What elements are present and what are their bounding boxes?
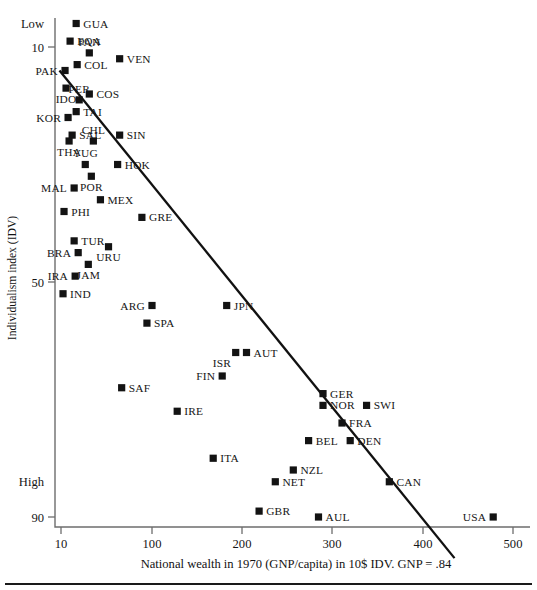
data-point: SAF (118, 382, 150, 394)
data-point: IND (59, 288, 91, 300)
data-point-marker (86, 90, 93, 97)
data-point: USA (463, 511, 497, 523)
data-point: ARG (120, 300, 155, 312)
data-point-marker (210, 455, 217, 462)
data-point-label: CAN (396, 476, 421, 488)
data-point-marker (105, 243, 112, 250)
data-point-marker (65, 137, 72, 144)
data-point-label: IRA (48, 270, 69, 282)
data-point: AUL (315, 511, 350, 523)
data-point-label: GRE (149, 211, 172, 223)
data-point-marker (490, 513, 497, 520)
data-point-label: SAF (129, 382, 151, 394)
data-point: CAN (386, 476, 421, 488)
data-point-marker (290, 466, 297, 473)
data-point-marker (67, 38, 74, 45)
data-point-label: POR (80, 181, 103, 193)
data-point-label: COL (84, 59, 107, 71)
data-point-label: COS (96, 88, 119, 100)
data-point-label: YUG (73, 147, 98, 159)
data-point: JPN (223, 300, 253, 312)
data-point-marker (60, 208, 67, 215)
data-point: GUA (73, 18, 110, 30)
data-point: JAM (77, 261, 100, 281)
x-tick-label: 500 (504, 537, 523, 551)
data-point: AUT (243, 347, 278, 359)
scatter-chart: 10100200300400500105090LowHighGUAEQAPANP… (0, 0, 537, 590)
data-point: HOK (114, 159, 151, 171)
data-point: MAL (41, 182, 78, 194)
data-point: GBR (256, 505, 291, 517)
data-point-label: IRE (184, 405, 203, 417)
data-point: NOR (319, 399, 355, 411)
data-point: FIN (196, 370, 226, 382)
data-point: PAN (78, 36, 100, 57)
data-point-marker (118, 384, 125, 391)
data-point-marker (138, 214, 145, 221)
y-axis-annotation-low: Low (21, 17, 45, 31)
data-point-marker (59, 290, 66, 297)
data-point: CHL (82, 124, 105, 145)
data-point-label: ISR (213, 357, 232, 369)
data-point: BEL (305, 435, 338, 447)
data-point: COL (74, 59, 108, 71)
data-point-label: BRA (47, 247, 72, 259)
data-point: YUG (73, 147, 98, 168)
data-point-label: IND (70, 288, 91, 300)
data-point-marker (315, 513, 322, 520)
data-point-marker (116, 132, 123, 139)
data-point: BRA (47, 247, 82, 259)
regression-line (59, 71, 454, 559)
data-point-marker (116, 55, 123, 62)
data-point-marker (71, 237, 78, 244)
data-point-marker (97, 196, 104, 203)
data-point: NET (272, 476, 305, 488)
x-axis-title: National wealth in 1970 (GNP/capita) in … (141, 557, 452, 571)
data-point: ISR (213, 349, 240, 369)
data-point-marker (143, 320, 150, 327)
y-tick-label: 50 (31, 276, 44, 290)
y-axis-annotation-high: High (19, 475, 45, 489)
data-point-marker (86, 49, 93, 56)
data-point: FRA (338, 417, 372, 429)
data-point-marker (305, 437, 312, 444)
data-point-marker (73, 108, 80, 115)
y-tick-label: 10 (31, 41, 44, 55)
data-point-label: JAM (77, 269, 100, 281)
data-point: SPA (143, 317, 175, 329)
data-point-marker (319, 402, 326, 409)
data-point: NZL (290, 464, 323, 476)
data-point-label: TUR (81, 235, 105, 247)
data-point-label: GBR (266, 505, 290, 517)
data-point: GRE (138, 211, 172, 223)
data-point: KOR (36, 112, 71, 124)
data-point-marker (114, 161, 121, 168)
data-point-label: JPN (234, 300, 254, 312)
data-point-marker (243, 349, 250, 356)
data-point-marker (363, 402, 370, 409)
x-tick-label: 300 (323, 537, 342, 551)
x-tick-label: 400 (414, 537, 433, 551)
data-point-label: PHI (71, 206, 90, 218)
data-point-label: NOR (330, 399, 355, 411)
data-point-label: HOK (125, 159, 151, 171)
data-point-label: ARG (120, 300, 145, 312)
data-point-label: CHL (82, 124, 105, 136)
data-point-marker (338, 419, 345, 426)
data-point-label: GER (330, 388, 354, 400)
data-point-label: NZL (300, 464, 323, 476)
data-point-marker (90, 137, 97, 144)
data-point-label: USA (463, 511, 487, 523)
data-point-marker (148, 302, 155, 309)
data-point: SWI (363, 399, 395, 411)
data-point: IRA (48, 270, 79, 282)
data-point-marker (219, 372, 226, 379)
data-point-label: URU (96, 251, 121, 263)
data-point-label: ITA (220, 452, 239, 464)
data-point-marker (319, 390, 326, 397)
data-point: MEX (97, 194, 134, 206)
data-point: PHI (60, 206, 90, 218)
data-point-marker (64, 114, 71, 121)
data-point-label: SWI (374, 399, 395, 411)
data-point-marker (72, 273, 79, 280)
